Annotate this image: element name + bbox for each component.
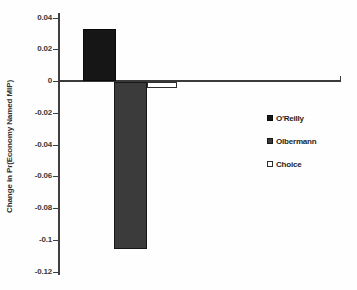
y-axis-line (58, 13, 60, 275)
y-tick-label: -0.08 (0, 203, 52, 213)
y-tick-label: 0 (0, 76, 52, 86)
legend-label: O'Reilly (276, 114, 304, 123)
legend-item-choice: Choice (267, 159, 316, 169)
legend-swatch-icon (267, 115, 273, 121)
y-tick-label: 0.02 (0, 44, 52, 54)
legend: O'ReillyOlbermannChoice (267, 113, 316, 169)
x-axis-end-tick (340, 76, 341, 81)
legend-swatch-icon (267, 161, 273, 167)
legend-label: Choice (276, 160, 301, 169)
y-tick-label: -0.02 (0, 108, 52, 118)
y-tick-label: -0.12 (0, 267, 52, 277)
bar-oreilly (83, 29, 116, 81)
legend-item-oreilly: O'Reilly (267, 113, 316, 123)
legend-label: Olbermann (276, 137, 316, 146)
y-tick-label: -0.06 (0, 171, 52, 181)
legend-swatch-icon (267, 138, 273, 144)
bar-olbermann (114, 82, 147, 249)
y-tick-label: -0.04 (0, 140, 52, 150)
y-tick-label: 0.04 (0, 13, 52, 23)
y-tick-label: -0.1 (0, 235, 52, 245)
bar-chart: Change in Pr(Economy Named MIP) 0.040.02… (0, 0, 357, 290)
bar-choice (147, 82, 177, 88)
legend-item-olbermann: Olbermann (267, 136, 316, 146)
